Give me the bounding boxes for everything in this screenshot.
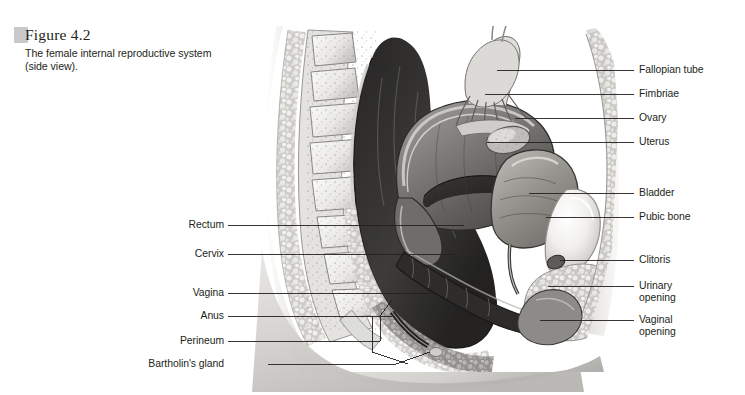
label-line-1: Bladder <box>639 187 674 199</box>
label-line-1: Fimbriae <box>639 88 679 100</box>
label-clitoris: Clitoris <box>639 254 670 266</box>
label-rectum: Rectum <box>189 219 225 231</box>
label-line-2: opening <box>639 292 676 304</box>
label-line-2: opening <box>639 326 676 338</box>
label-fimbriae: Fimbriae <box>639 88 679 100</box>
label-ovary: Ovary <box>639 112 666 124</box>
label-line-1: Uterus <box>639 136 669 148</box>
label-line-1: Urinary <box>639 280 676 292</box>
label-line-1: Vaginal <box>639 314 676 326</box>
label-vagina: Vagina <box>193 287 224 299</box>
figure-number-row: Figure 4.2 <box>14 26 229 45</box>
label-pubic-bone: Pubic bone <box>639 211 691 223</box>
label-vaginal-opening: Vaginalopening <box>639 314 676 338</box>
label-fallopian-tube: Fallopian tube <box>639 64 704 76</box>
figure-caption-text: The female internal reproductive system … <box>14 47 229 73</box>
figure-caption-block: Figure 4.2 The female internal reproduct… <box>14 26 229 73</box>
label-line-1: Clitoris <box>639 254 670 266</box>
label-line-1: Pubic bone <box>639 211 691 223</box>
label-perineum: Perineum <box>180 335 224 347</box>
figure-number: Figure 4.2 <box>25 26 91 44</box>
label-bartholins-gland: Bartholin's gland <box>148 358 224 370</box>
label-line-1: Fallopian tube <box>639 64 704 76</box>
label-uterus: Uterus <box>639 136 669 148</box>
label-line-1: Ovary <box>639 112 666 124</box>
label-cervix: Cervix <box>195 248 224 260</box>
label-bladder: Bladder <box>639 187 674 199</box>
label-anus: Anus <box>201 310 224 322</box>
label-urinary-opening: Urinaryopening <box>639 280 676 304</box>
